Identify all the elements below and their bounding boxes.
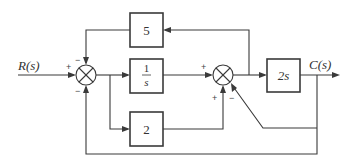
output-label-c: C(s) — [309, 57, 331, 72]
sum1-sign-bottom: − — [75, 86, 80, 96]
integrator-input-arrow — [122, 72, 130, 78]
gain5-to-sum1-line — [86, 30, 130, 63]
branch-to-gain2-line — [110, 75, 128, 129]
sum2-bottom-arrow — [220, 85, 226, 93]
block-derivative-label: 2s — [278, 68, 290, 83]
sum2-sign-left: + — [201, 62, 206, 72]
gain2-input-arrow — [122, 126, 130, 132]
block-gain-5-label: 5 — [143, 23, 150, 38]
sum1-bottom-arrow — [83, 85, 89, 93]
integrator-denominator: s — [144, 76, 148, 88]
input-arrow — [68, 72, 76, 78]
summing-junction-2 — [213, 65, 233, 85]
input-label-r: R(s) — [17, 58, 40, 73]
sum1-sign-top: − — [75, 55, 80, 65]
block-gain-2-label: 2 — [143, 122, 150, 137]
sum1-top-arrow — [83, 57, 89, 65]
integrator-numerator: 1 — [144, 62, 150, 74]
derivative-input-arrow — [259, 72, 267, 78]
sum2-sign-bottom-left: + — [212, 93, 217, 103]
block-diagram: R(s) + − − 5 1 s 2 + + − 2s — [0, 0, 358, 163]
summing-junction-1 — [76, 65, 96, 85]
gain5-feedback-line — [165, 30, 249, 75]
gain5-input-arrow — [163, 27, 171, 33]
output-arrow — [332, 72, 340, 78]
sum2-left-arrow — [205, 72, 213, 78]
sum2-sign-bottom-right: − — [229, 93, 234, 103]
sum1-sign-left: + — [66, 62, 71, 72]
